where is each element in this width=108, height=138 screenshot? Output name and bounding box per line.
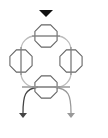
loop-path: [21, 36, 71, 87]
output-right-arrow-icon: [67, 113, 75, 118]
output-left-arrow-icon: [19, 113, 27, 118]
output-left-curve: [23, 87, 38, 113]
ring-diagram: [0, 0, 108, 138]
input-arrow-icon: [39, 10, 53, 17]
diagram-canvas: [0, 0, 108, 138]
